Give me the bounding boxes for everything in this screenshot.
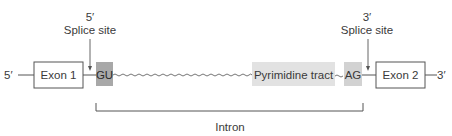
splice3-line2: Splice site: [341, 24, 393, 36]
intron-wavy-line: [113, 74, 252, 76]
pyrimidine-connector: [335, 75, 343, 77]
splice5-line1: 5′: [86, 11, 95, 23]
splice5-arrow-head-icon: [88, 66, 92, 71]
splice3-arrow-head-icon: [366, 66, 370, 71]
intron-label: Intron: [215, 121, 244, 133]
splice3-line1: 3′: [363, 11, 372, 23]
splicing-diagram: 5′ Exon 1 GU Pyrimidine tract AG Exon 2 …: [0, 0, 452, 136]
intron-bracket: [96, 103, 363, 111]
ag-label: AG: [345, 69, 362, 81]
gu-label: GU: [96, 69, 113, 81]
five-prime-end-label: 5′: [4, 69, 13, 81]
three-prime-end-label: 3′: [437, 69, 446, 81]
exon1-label: Exon 1: [41, 69, 77, 81]
pyrimidine-tract-label: Pyrimidine tract: [254, 69, 334, 81]
exon2-label: Exon 2: [383, 69, 419, 81]
splice5-line2: Splice site: [64, 24, 116, 36]
